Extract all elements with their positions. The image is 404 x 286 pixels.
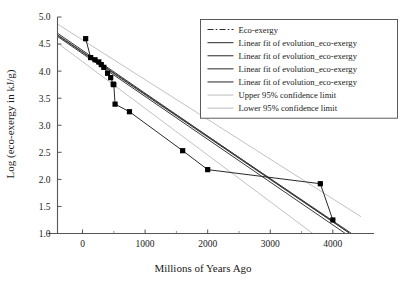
x-tick-label: 2000 xyxy=(198,239,217,249)
data-point-marker xyxy=(108,75,113,80)
data-point-marker xyxy=(180,148,185,153)
legend-entry-label: Eco-exergy xyxy=(239,25,279,35)
y-tick-label: 4.0 xyxy=(39,67,51,77)
chart-figure: 01000200030004000 1.01.52.02.53.03.54.04… xyxy=(0,0,404,286)
data-point-marker xyxy=(127,109,132,114)
y-tick-label: 5.0 xyxy=(39,12,51,22)
y-tick-label: 2.0 xyxy=(39,175,51,185)
x-tick-label: 0 xyxy=(80,239,85,249)
chart-legend: Eco-exergyLinear fit of evolution_eco-ex… xyxy=(201,20,398,119)
legend-entry-label: Linear fit of evolution_eco-exergy xyxy=(239,64,358,74)
y-axis-title: Log (eco-exergy in kJ/g) xyxy=(4,69,17,178)
data-point-marker xyxy=(101,65,106,70)
legend-entry-label: Upper 95% confidence limit xyxy=(239,90,337,100)
y-tick-label: 3.0 xyxy=(39,121,51,131)
data-point-marker xyxy=(112,102,117,107)
x-axis-ticks: 01000200030004000 xyxy=(80,230,342,249)
data-point-marker xyxy=(318,181,323,186)
y-axis-ticks: 1.01.52.02.53.03.54.04.55.0 xyxy=(39,12,62,239)
x-tick-label: 1000 xyxy=(136,239,155,249)
y-tick-label: 2.5 xyxy=(39,148,51,158)
x-tick-label: 4000 xyxy=(323,239,342,249)
data-point-marker xyxy=(83,36,88,41)
x-axis-title: Millions of Years Ago xyxy=(154,262,252,274)
y-tick-label: 3.5 xyxy=(39,94,51,104)
legend-entry-label: Linear fit of evolution_eco-exergy xyxy=(239,51,358,61)
y-tick-label: 4.5 xyxy=(39,39,51,49)
data-point-marker xyxy=(111,82,116,87)
data-point-marker xyxy=(330,217,335,222)
legend-entry-label: Linear fit of evolution_eco-exergy xyxy=(239,38,358,48)
chart-plot-area: 01000200030004000 1.01.52.02.53.03.54.04… xyxy=(0,0,404,286)
y-tick-label: 1.5 xyxy=(39,202,51,212)
legend-entry-label: Lower 95% confidence limit xyxy=(239,103,338,113)
x-tick-label: 3000 xyxy=(261,239,280,249)
y-tick-label: 1.0 xyxy=(39,229,51,239)
legend-entry-label: Linear fit of evolution_eco-exergy xyxy=(239,77,358,87)
data-point-marker xyxy=(205,167,210,172)
